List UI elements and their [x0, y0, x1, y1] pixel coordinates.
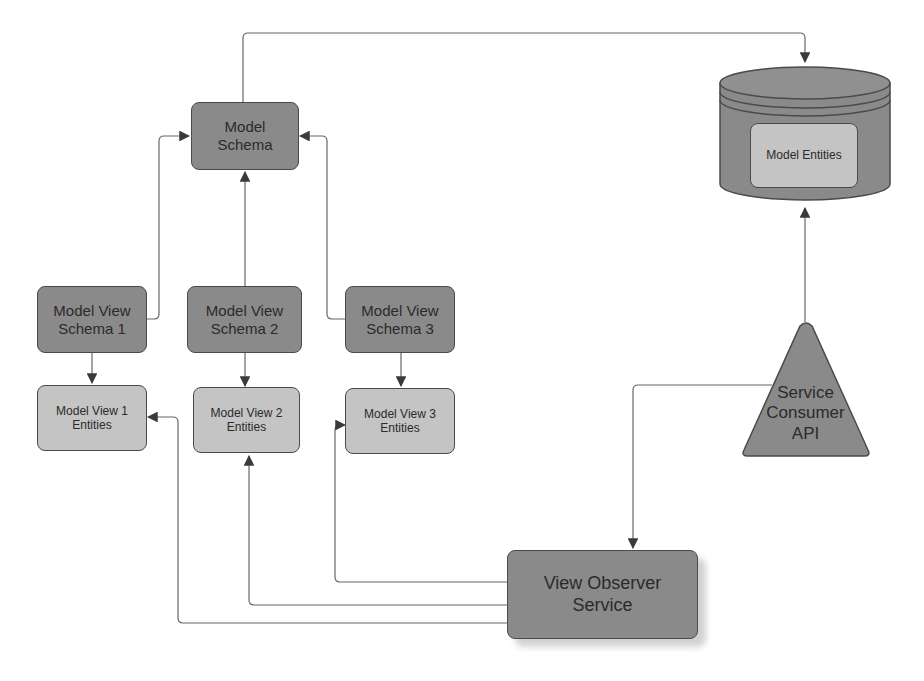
- model-view-3-entities-node: Model View 3 Entities: [345, 388, 455, 454]
- model-view-schema-3-node: Model View Schema 3: [345, 286, 455, 353]
- model-view-2-entities-node: Model View 2 Entities: [193, 387, 300, 453]
- model-view-schema-2-node: Model View Schema 2: [187, 286, 302, 353]
- edge-mvs1-to-schema: [147, 136, 189, 319]
- edge-observer-to-mve2: [249, 456, 507, 605]
- model-view-schema-1-node: Model View Schema 1: [37, 286, 147, 353]
- model-schema-node: Model Schema: [191, 102, 299, 170]
- model-view-1-entities-node: Model View 1 Entities: [37, 385, 147, 451]
- view-observer-service-node: View Observer Service: [507, 550, 698, 639]
- service-consumer-api-label: Service Consumer API: [748, 383, 863, 444]
- model-entities-node: Model Entities: [750, 123, 858, 188]
- edge-mvs3-to-schema: [300, 136, 345, 319]
